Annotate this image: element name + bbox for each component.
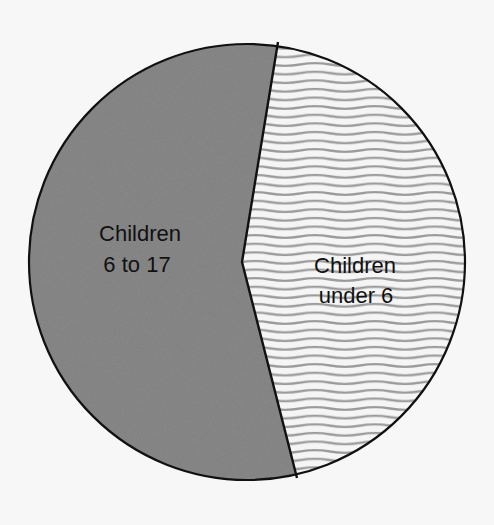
label-older-line2: 6 to 17	[103, 252, 170, 277]
label-older-line1: Children	[99, 221, 181, 246]
label-younger-line1: Children	[314, 253, 396, 278]
pie-chart: Children 6 to 17 Children under 6	[0, 0, 494, 525]
label-younger-line2: under 6	[319, 283, 394, 308]
